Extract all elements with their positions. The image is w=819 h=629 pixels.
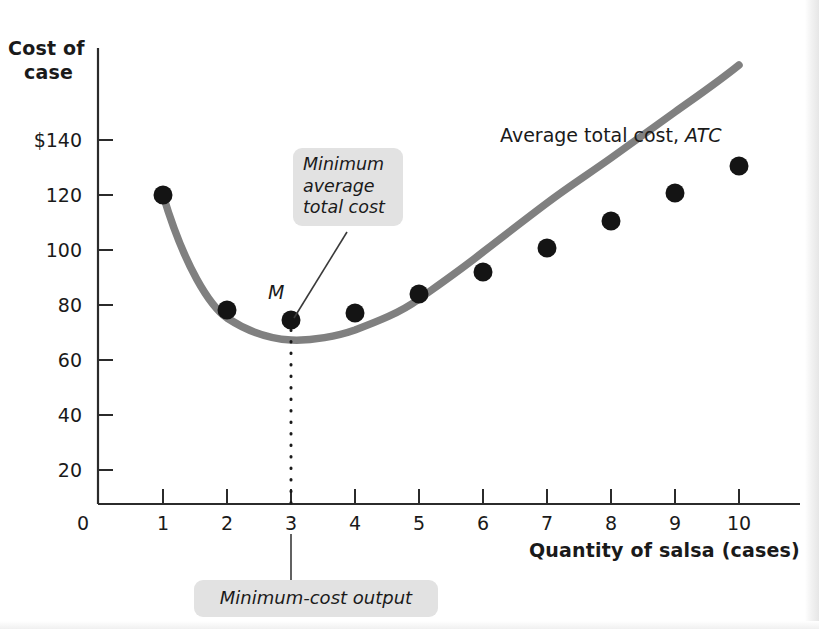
- minimum-point-label: M: [268, 281, 284, 303]
- data-point-q6: [474, 263, 493, 282]
- atc-curve-label: Average total cost, ATC: [500, 124, 722, 146]
- atc-curve-label-symbol: ATC: [685, 124, 722, 146]
- page-edge-shadow-right: [805, 0, 819, 629]
- y-tick-label-20: 20: [2, 459, 82, 481]
- chart-figure: Cost of case Quantity of salsa (cases) $…: [0, 0, 819, 629]
- y-axis-ticks: [98, 140, 113, 470]
- x-tick-label-8: 8: [591, 512, 631, 534]
- data-point-q5: [410, 285, 429, 304]
- y-axis-title-line1: Cost of: [8, 37, 85, 59]
- y-tick-label-40: 40: [2, 404, 82, 426]
- x-tick-label-9: 9: [655, 512, 695, 534]
- data-point-q10: [730, 157, 749, 176]
- data-point-q8: [602, 212, 621, 231]
- data-point-q9: [666, 184, 685, 203]
- x-tick-label-1: 1: [143, 512, 183, 534]
- y-tick-label-80: 80: [2, 294, 82, 316]
- x-tick-label-10: 10: [719, 512, 759, 534]
- atc-curve-label-text: Average total cost,: [500, 124, 685, 146]
- y-axis-title-line2: case: [8, 60, 128, 84]
- x-tick-label-5: 5: [399, 512, 439, 534]
- data-points: [154, 157, 749, 330]
- data-point-q7: [538, 239, 557, 258]
- data-point-q4: [346, 304, 365, 323]
- y-axis-title: Cost of case: [8, 36, 128, 84]
- atc-curve-plot: [0, 0, 819, 629]
- callout-minimum-cost-output: Minimum-cost output: [194, 580, 438, 617]
- x-tick-label-2: 2: [207, 512, 247, 534]
- callout-leader-minimum-atc: [294, 232, 347, 318]
- callout-minimum-average-total-cost: Minimum average total cost: [293, 148, 403, 226]
- x-tick-label-7: 7: [527, 512, 567, 534]
- page-edge-shadow-bottom: [0, 621, 819, 629]
- x-tick-label-6: 6: [463, 512, 503, 534]
- x-tick-label-3: 3: [271, 512, 311, 534]
- y-tick-label-60: 60: [2, 349, 82, 371]
- data-point-q1: [154, 186, 173, 205]
- y-tick-label-140: $140: [2, 129, 82, 151]
- y-tick-label-100: 100: [2, 239, 82, 261]
- atc-curve: [163, 65, 739, 340]
- data-point-q2: [218, 301, 237, 320]
- y-tick-label-120: 120: [2, 184, 82, 206]
- x-axis-ticks: [163, 489, 739, 504]
- x-tick-label-4: 4: [335, 512, 375, 534]
- x-axis-title: Quantity of salsa (cases): [470, 538, 800, 562]
- x-tick-label-0: 0: [63, 512, 103, 534]
